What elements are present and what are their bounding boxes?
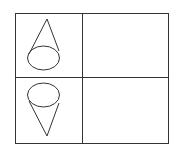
cone-apex-up-icon xyxy=(28,19,60,70)
cone-table-diagram xyxy=(0,0,177,148)
cell-top-right xyxy=(83,14,168,77)
cone-apex-down-icon xyxy=(28,83,60,136)
cell-bottom-right xyxy=(83,78,168,143)
